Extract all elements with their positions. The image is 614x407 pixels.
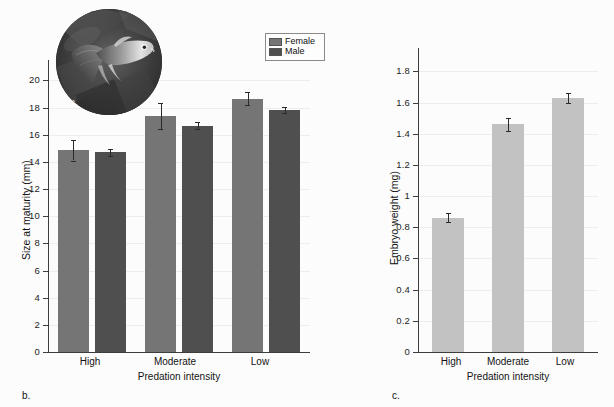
x-tick-label-low-size: Low bbox=[230, 356, 290, 367]
legend-label-male: Male bbox=[285, 47, 305, 56]
panel-letter-c: c. bbox=[392, 390, 400, 401]
scientific-figure: Size at maturity (mm) High Moderate Low … bbox=[0, 0, 614, 407]
x-tick-label-moderate-size: Moderate bbox=[145, 356, 205, 367]
error-bar-cap-lower bbox=[566, 103, 571, 104]
y-axis-tick-label: 1.2 bbox=[380, 159, 410, 170]
plot-area-embryo bbox=[418, 48, 598, 352]
error-bar-cap-upper bbox=[506, 118, 511, 119]
error-bar-cap-lower bbox=[108, 156, 113, 157]
error-bar bbox=[248, 92, 249, 106]
size-at-maturity-panel: Size at maturity (mm) High Moderate Low … bbox=[0, 0, 330, 407]
gridline bbox=[418, 71, 598, 72]
error-bar bbox=[508, 118, 509, 131]
x-tick-label-low-embryo: Low bbox=[539, 356, 591, 367]
x-axis-line bbox=[418, 352, 598, 353]
error-bar-cap-lower bbox=[282, 113, 287, 114]
y-axis-tick-label: 18 bbox=[10, 102, 40, 113]
legend-sex: Female Male bbox=[265, 33, 325, 61]
error-bar-cap-upper bbox=[566, 93, 571, 94]
error-bar-cap-upper bbox=[446, 213, 451, 214]
y-axis-tick-label: 0.4 bbox=[380, 284, 410, 295]
y-axis-title-embryo: Embryo weight (mg) bbox=[388, 171, 400, 265]
y-axis-tick-label: 4 bbox=[10, 292, 40, 303]
y-axis-line bbox=[418, 48, 419, 352]
y-axis-tick-label: 10 bbox=[10, 210, 40, 221]
x-axis-title-embryo: Predation intensity bbox=[418, 371, 598, 382]
bar-embryo-weight-high bbox=[432, 218, 464, 352]
error-bar-cap-lower bbox=[71, 161, 76, 162]
y-axis-tick-label: 6 bbox=[10, 265, 40, 276]
y-axis-tick-label: 2 bbox=[10, 319, 40, 330]
bar-male-high bbox=[95, 152, 126, 352]
legend-item-female: Female bbox=[269, 37, 320, 46]
legend-swatch-female bbox=[269, 38, 282, 46]
error-bar bbox=[568, 93, 569, 103]
error-bar-cap-upper bbox=[195, 122, 200, 123]
error-bar-cap-lower bbox=[446, 222, 451, 223]
error-bar-cap-lower bbox=[506, 131, 511, 132]
bar-embryo-weight-low bbox=[552, 98, 584, 352]
bar-female-low bbox=[232, 99, 263, 352]
error-bar bbox=[73, 140, 74, 160]
error-bar-cap-lower bbox=[158, 129, 163, 130]
error-bar bbox=[448, 213, 449, 222]
error-bar-cap-lower bbox=[245, 105, 250, 106]
y-axis-tick-label: 1.8 bbox=[380, 65, 410, 76]
x-tick-label-high-size: High bbox=[60, 356, 120, 367]
bar-male-moderate bbox=[182, 126, 213, 352]
legend-item-male: Male bbox=[269, 47, 320, 56]
y-axis-tick-label: 8 bbox=[10, 237, 40, 248]
y-axis-tick-label: 16 bbox=[10, 129, 40, 140]
error-bar-cap-lower bbox=[195, 129, 200, 130]
y-axis-tick-label: 12 bbox=[10, 183, 40, 194]
bar-male-low bbox=[269, 110, 300, 352]
legend-swatch-male bbox=[269, 48, 282, 56]
error-bar-cap-upper bbox=[158, 103, 163, 104]
y-axis-tick-label: 0.2 bbox=[380, 315, 410, 326]
y-axis-line bbox=[48, 60, 49, 352]
error-bar bbox=[161, 103, 162, 129]
bar-female-high bbox=[58, 150, 89, 352]
error-bar-cap-upper bbox=[245, 92, 250, 93]
error-bar bbox=[198, 122, 199, 129]
guppy-photo-inset: a. bbox=[56, 9, 162, 115]
y-axis-tick-label: 20 bbox=[10, 74, 40, 85]
y-axis-tick-label: 0 bbox=[10, 346, 40, 357]
x-tick-label-high-embryo: High bbox=[425, 356, 477, 367]
x-tick-label-moderate-embryo: Moderate bbox=[482, 356, 534, 367]
panel-letter-a: a. bbox=[70, 96, 78, 107]
y-axis-tick-label: 0.6 bbox=[380, 252, 410, 263]
legend-label-female: Female bbox=[285, 37, 315, 46]
y-axis-tick-label: 14 bbox=[10, 156, 40, 167]
x-axis-title-size: Predation intensity bbox=[48, 371, 310, 382]
error-bar bbox=[110, 149, 111, 156]
y-axis-tick-label: 1.4 bbox=[380, 128, 410, 139]
error-bar-cap-upper bbox=[282, 107, 287, 108]
y-axis-tick-label: 1 bbox=[380, 190, 410, 201]
error-bar-cap-upper bbox=[108, 149, 113, 150]
bar-female-moderate bbox=[145, 116, 176, 352]
x-axis-line bbox=[48, 352, 310, 353]
panel-letter-b: b. bbox=[22, 390, 30, 401]
embryo-weight-panel: Embryo weight (mg) High Moderate Low Pre… bbox=[330, 0, 614, 407]
y-axis-tick-label: 0 bbox=[380, 346, 410, 357]
y-axis-tick-label: 1.6 bbox=[380, 97, 410, 108]
error-bar-cap-upper bbox=[71, 140, 76, 141]
bar-embryo-weight-moderate bbox=[492, 124, 524, 352]
y-axis-tick-label: 0.8 bbox=[380, 221, 410, 232]
